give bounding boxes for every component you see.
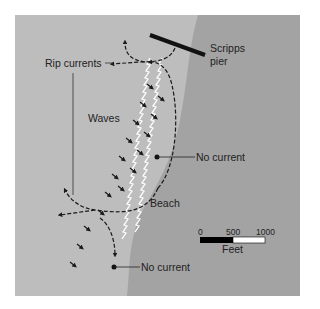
pier-label-line1: Scripps: [210, 43, 245, 54]
scale-unit-label: Feet: [222, 244, 243, 255]
rip-currents-label: Rip currents: [45, 58, 102, 69]
pier-label-line2: pier: [210, 56, 228, 67]
waves-label: Waves: [88, 113, 120, 124]
scale-tick-0: 0: [198, 228, 203, 237]
scale-tick-500: 500: [226, 228, 240, 237]
no-current-label-upper: No current: [196, 152, 245, 163]
no-current-label-lower: No current: [141, 262, 190, 273]
scale-tick-1000: 1000: [256, 228, 275, 237]
beach-label: Beach: [150, 198, 180, 209]
